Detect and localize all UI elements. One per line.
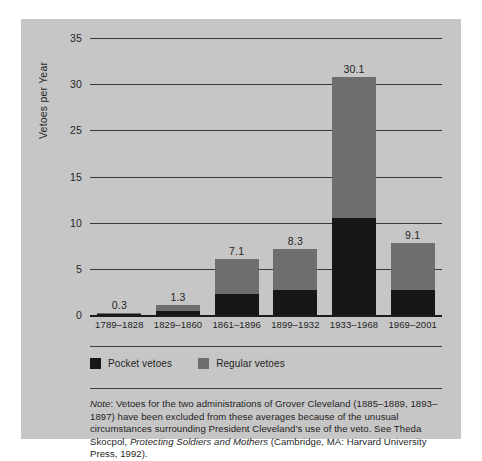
bar-slot: 1.3 <box>149 38 208 315</box>
y-axis-title: Vetoes per Year <box>37 62 49 139</box>
y-tick-label: 35 <box>70 32 82 44</box>
note-book-title: Protecting Soldiers and Mothers <box>130 436 268 447</box>
legend-item[interactable]: Regular vetoes <box>198 358 285 369</box>
bar-slot: 7.1 <box>207 38 266 315</box>
gridline <box>90 315 442 317</box>
y-tick-label: 30 <box>70 78 82 90</box>
legend-bottom-rule <box>90 388 442 389</box>
bar-total-label: 1.3 <box>170 291 185 303</box>
bar-segment-pocket-vetoes[interactable] <box>273 290 317 315</box>
y-tick-label: 25 <box>70 124 82 136</box>
bar-total-label: 8.3 <box>288 235 303 247</box>
x-axis-labels: 1789–18281829–18601861–18961899–19321933… <box>90 319 442 330</box>
bar-segment-regular-vetoes[interactable] <box>215 259 259 294</box>
stacked-bar[interactable]: 0.3 <box>97 313 141 315</box>
bar-slot: 8.3 <box>266 38 325 315</box>
bar-segment-pocket-vetoes[interactable] <box>391 290 435 315</box>
bar-segment-regular-vetoes[interactable] <box>391 243 435 290</box>
y-tick-label: 0 <box>76 309 82 321</box>
bar-group: 0.31.37.18.330.19.1 <box>90 38 442 315</box>
x-tick-label: 1969–2001 <box>383 319 442 330</box>
bar-segment-pocket-vetoes[interactable] <box>97 314 141 315</box>
legend-label: Pocket vetoes <box>108 358 172 369</box>
x-tick-label: 1829–1860 <box>149 319 208 330</box>
note-prefix: Note <box>90 398 110 409</box>
chart-legend: Pocket vetoesRegular vetoes <box>90 358 285 369</box>
bar-slot: 30.1 <box>325 38 384 315</box>
stacked-bar[interactable]: 30.1 <box>332 77 376 315</box>
legend-swatch-pocket <box>90 358 101 369</box>
bar-total-label: 7.1 <box>229 245 244 257</box>
legend-swatch-regular <box>198 358 209 369</box>
x-tick-label: 1789–1828 <box>90 319 149 330</box>
bar-segment-pocket-vetoes[interactable] <box>215 294 259 315</box>
legend-item[interactable]: Pocket vetoes <box>90 358 172 369</box>
y-tick-label: 5 <box>76 263 82 275</box>
legend-label: Regular vetoes <box>216 358 285 369</box>
bar-slot: 9.1 <box>383 38 442 315</box>
bar-segment-pocket-vetoes[interactable] <box>332 218 376 315</box>
stacked-bar[interactable]: 9.1 <box>391 243 435 315</box>
stacked-bar[interactable]: 1.3 <box>156 305 200 315</box>
bar-total-label: 30.1 <box>343 63 364 75</box>
chart-figure: Vetoes per Year 353025151050 0.31.37.18.… <box>21 19 461 439</box>
stacked-bar[interactable]: 8.3 <box>273 249 317 315</box>
y-tick-label: 10 <box>70 217 82 229</box>
bar-segment-regular-vetoes[interactable] <box>332 77 376 218</box>
bar-total-label: 9.1 <box>405 229 420 241</box>
x-tick-label: 1861–1896 <box>207 319 266 330</box>
bar-segment-regular-vetoes[interactable] <box>273 249 317 289</box>
figure-note: Note: Vetoes for the two administrations… <box>90 398 448 461</box>
x-tick-label: 1933–1968 <box>325 319 384 330</box>
bar-segment-pocket-vetoes[interactable] <box>156 311 200 315</box>
y-tick-label: 15 <box>70 171 82 183</box>
bar-slot: 0.3 <box>90 38 149 315</box>
bar-total-label: 0.3 <box>112 299 127 311</box>
legend-top-rule <box>90 346 442 347</box>
stacked-bar[interactable]: 7.1 <box>215 259 259 315</box>
x-tick-label: 1899–1932 <box>266 319 325 330</box>
